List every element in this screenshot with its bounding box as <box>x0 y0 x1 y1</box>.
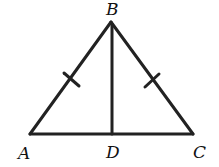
label-b: B <box>105 0 119 19</box>
segment-bc <box>111 22 193 134</box>
label-d: D <box>105 142 120 162</box>
triangle-diagram: B A D C <box>0 0 219 167</box>
label-a: A <box>16 143 30 163</box>
label-c: C <box>193 142 206 162</box>
